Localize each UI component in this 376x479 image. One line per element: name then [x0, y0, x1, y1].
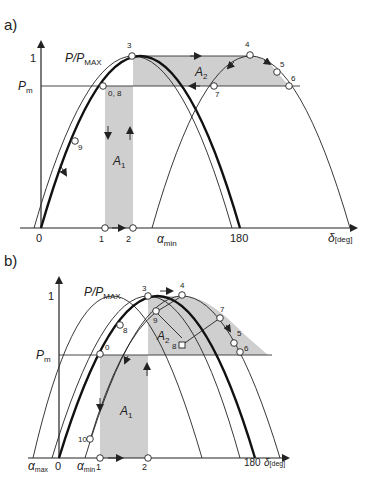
svg-text:8: 8 — [172, 342, 177, 351]
x-tick-2-b: 2 — [142, 462, 147, 472]
svg-text:7: 7 — [220, 305, 225, 314]
pm-label-a: Pm — [18, 79, 33, 95]
svg-text:4: 4 — [245, 40, 250, 49]
x-tick-180-b: 180 — [244, 457, 261, 468]
alpha-max-b: αmax — [28, 459, 49, 473]
svg-text:5: 5 — [280, 60, 285, 69]
area-b2-shade — [148, 296, 268, 355]
svg-text:10: 10 — [78, 435, 87, 444]
y-axis-label-a: P/PMAX — [65, 51, 102, 67]
x-tick-1-b: 1 — [96, 462, 101, 472]
panel-a: a) — [4, 16, 356, 248]
equal-area-criterion-diagram: a) — [0, 0, 376, 479]
svg-text:4: 4 — [180, 281, 185, 290]
alpha-min-a: αmin — [157, 232, 177, 248]
x-axis-label-b: δ[deg] — [264, 457, 285, 468]
pm-label-b: Pm — [36, 348, 51, 364]
y-tick-one-a: 1 — [30, 52, 36, 64]
svg-text:7: 7 — [215, 90, 220, 99]
x-tick-0-a: 0 — [36, 232, 42, 244]
x-tick-0-b: 0 — [55, 460, 61, 472]
y-axis-label-b: P/PMAX — [84, 285, 121, 301]
panel-b: b) — [4, 252, 288, 473]
svg-text:5: 5 — [237, 329, 242, 338]
svg-text:9: 9 — [78, 143, 83, 152]
x-tick-180-a: 180 — [230, 232, 248, 244]
svg-text:6: 6 — [244, 344, 249, 353]
svg-text:3: 3 — [127, 41, 132, 50]
alpha-min-b: αmin — [77, 459, 95, 473]
svg-text:6: 6 — [291, 74, 296, 83]
x-axis-label-a: δ[deg] — [328, 231, 352, 245]
panel-b-label: b) — [4, 252, 17, 269]
x-tick-2-a: 2 — [126, 234, 131, 244]
x-tick-1-a: 1 — [99, 234, 104, 244]
svg-text:3: 3 — [142, 284, 147, 293]
svg-text:8: 8 — [123, 326, 128, 335]
svg-text:9: 9 — [153, 316, 158, 325]
y-tick-one-b: 1 — [48, 290, 54, 302]
svg-text:0, 8: 0, 8 — [108, 89, 122, 98]
svg-text:0: 0 — [105, 343, 110, 352]
panel-a-label: a) — [4, 16, 17, 33]
